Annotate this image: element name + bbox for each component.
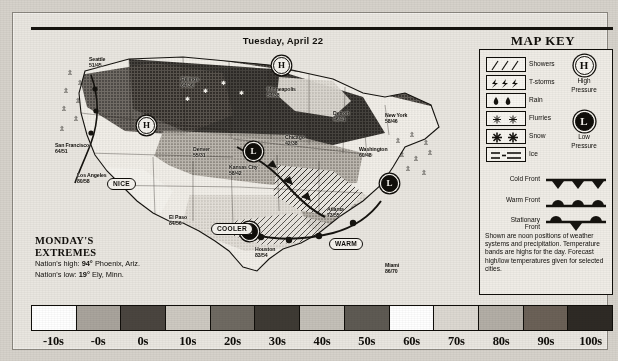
temperature-band-90s <box>523 306 568 330</box>
city-temps: 73/55 <box>327 213 344 219</box>
rain-symbols-northwest: ⇫⇫ ⇫⇫ ⇫⇫ ⇫ <box>59 69 83 133</box>
temperature-label-60s: 60s <box>389 332 434 352</box>
map-callout-cooler[interactable]: COOLER <box>211 223 253 235</box>
svg-text:✱: ✱ <box>185 96 190 102</box>
map-key-panel: Showers T-storms <box>479 49 613 295</box>
key-label-tstorms: T-storms <box>529 78 555 85</box>
temperature-scale-labels: -10s-0s0s10s20s30s40s50s60s70s80s90s100s <box>31 332 613 352</box>
city-label-el-paso[interactable]: El Paso 84/56 <box>169 215 187 226</box>
extremes-low-row: Nation's low: 19° Ely, Minn. <box>35 270 245 280</box>
city-label-billings[interactable]: Billings 64/36 <box>181 77 199 88</box>
temperature-label-20s: 20s <box>210 332 255 352</box>
svg-text:⇫: ⇫ <box>427 149 433 157</box>
city-label-san-francisco[interactable]: San Francisco 64/51 <box>55 143 89 154</box>
map-low-pressure-marker[interactable]: L <box>381 175 398 192</box>
temperature-band--10s <box>32 306 76 330</box>
svg-text:⇫: ⇫ <box>63 87 69 95</box>
svg-text:⇫: ⇫ <box>59 125 65 133</box>
top-rule-divider <box>31 27 613 30</box>
city-temps: 42/38 <box>285 141 305 147</box>
city-temps: 64/36 <box>181 83 199 89</box>
temperature-band-40s <box>299 306 344 330</box>
low-pressure-label-1: Low <box>560 133 608 140</box>
stationary-front-label-1: Stationary <box>484 216 540 223</box>
map-callout-nice[interactable]: NICE <box>107 178 136 190</box>
city-label-atlanta[interactable]: Atlanta 73/55 <box>327 207 344 218</box>
city-label-chicago[interactable]: Chicago 42/38 <box>285 135 305 146</box>
city-label-washington[interactable]: Washington 60/48 <box>359 147 388 158</box>
city-label-miami[interactable]: Miami 86/70 <box>385 263 399 274</box>
key-row-stationary-front[interactable]: Stationary Front <box>484 213 608 233</box>
city-temps: 51/45 <box>89 63 105 69</box>
city-temps: 58/42 <box>229 171 258 177</box>
svg-text:✱: ✱ <box>239 90 244 96</box>
temperature-label--0s: -0s <box>76 332 121 352</box>
city-temps: 84/56 <box>169 221 187 227</box>
flurries-icon <box>486 111 526 126</box>
city-temps: 54/38 <box>267 93 296 99</box>
city-label-los-angeles[interactable]: Los Angeles 80/58 <box>77 173 107 184</box>
svg-text:⇫: ⇫ <box>399 151 405 159</box>
temperature-band-80s <box>478 306 523 330</box>
temperature-label-30s: 30s <box>255 332 300 352</box>
city-label-detroit[interactable]: Detroit 46/41 <box>333 111 349 122</box>
temperature-label-90s: 90s <box>523 332 568 352</box>
temperature-band-10s <box>165 306 210 330</box>
map-high-pressure-marker[interactable]: H <box>273 57 290 74</box>
key-low-pressure[interactable]: L Low Pressure <box>560 112 608 150</box>
temperature-band-60s <box>389 306 434 330</box>
temperature-label-40s: 40s <box>300 332 345 352</box>
extremes-high-value: 94° <box>82 259 93 268</box>
city-label-new-york[interactable]: New York 58/46 <box>385 113 407 124</box>
svg-text:⇫: ⇫ <box>423 139 429 147</box>
newspaper-page: Tuesday, April 22 <box>0 0 618 361</box>
ice-icon <box>486 147 526 162</box>
svg-text:⇫: ⇫ <box>67 69 73 77</box>
map-callout-warm[interactable]: WARM <box>329 238 363 250</box>
extremes-high-label: Nation's high: <box>35 259 80 269</box>
temperature-scale: -10s-0s0s10s20s30s40s50s60s70s80s90s100s <box>31 305 613 357</box>
city-label-kansas-city[interactable]: Kansas City 58/42 <box>229 165 258 176</box>
key-row-warm-front[interactable]: Warm Front <box>484 193 608 213</box>
city-temps: 60/48 <box>359 153 388 159</box>
svg-text:⇫: ⇫ <box>61 105 67 113</box>
city-temps: 83/54 <box>255 253 275 259</box>
map-high-pressure-marker[interactable]: H <box>138 117 155 134</box>
key-label-flurries: Flurries <box>529 114 551 121</box>
temperature-scale-bar <box>31 305 613 331</box>
temperature-band-20s <box>210 306 255 330</box>
high-pressure-label-2: Pressure <box>560 86 608 93</box>
city-label-houston[interactable]: Houston 83/54 <box>255 247 275 258</box>
city-label-minneapolis[interactable]: Minneapolis 54/38 <box>267 87 296 98</box>
tstorms-icon <box>486 75 526 90</box>
key-label-ice: Ice <box>529 150 538 157</box>
extremes-high-place: Phoenix, Ariz. <box>95 259 140 268</box>
temperature-label-50s: 50s <box>344 332 389 352</box>
map-low-pressure-marker[interactable]: L <box>245 143 262 160</box>
high-pressure-label-1: High <box>560 77 608 84</box>
cold-front-icon <box>544 172 608 190</box>
city-label-seattle[interactable]: Seattle 51/45 <box>89 57 105 68</box>
extremes-title: MONDAY'S EXTREMES <box>35 235 245 258</box>
stationary-front-icon <box>544 213 608 231</box>
extremes-title-line1: MONDAY'S <box>35 235 245 247</box>
city-temps: 80/58 <box>77 179 107 185</box>
map-key-note: Shown are noon positions of weather syst… <box>485 232 607 273</box>
svg-text:⇫: ⇫ <box>409 131 415 139</box>
temperature-band-30s <box>254 306 299 330</box>
temperature-band-70s <box>433 306 478 330</box>
showers-icon <box>486 57 526 72</box>
svg-text:⇫: ⇫ <box>421 169 427 177</box>
extremes-title-line2: EXTREMES <box>35 247 245 259</box>
key-row-rain[interactable]: Rain <box>486 93 606 108</box>
temperature-label-10s: 10s <box>165 332 210 352</box>
warm-front-label: Warm Front <box>484 196 540 203</box>
city-temps: 55/31 <box>193 153 210 159</box>
temperature-band-100s <box>567 306 612 330</box>
weather-map-frame: Tuesday, April 22 <box>12 12 608 350</box>
svg-text:⇫: ⇫ <box>395 137 401 145</box>
city-label-denver[interactable]: Denver 55/31 <box>193 147 210 158</box>
low-pressure-icon: L <box>575 112 594 131</box>
key-row-cold-front[interactable]: Cold Front <box>484 172 608 192</box>
key-high-pressure[interactable]: H High Pressure <box>560 56 608 94</box>
